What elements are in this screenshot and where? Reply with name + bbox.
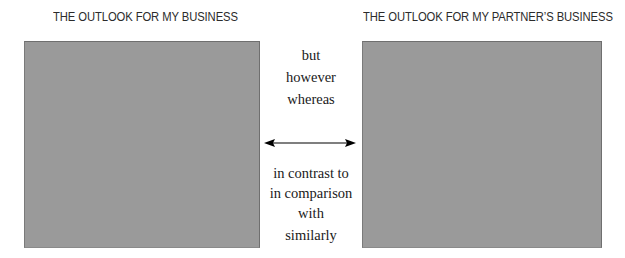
phrase-with: with (262, 203, 360, 223)
phrase-in-contrast-to: in contrast to (262, 162, 360, 184)
right-panel-title: THE OUTLOOK FOR MY PARTNER’S BUSINESS (363, 10, 613, 24)
comparison-words-list: in contrast to in comparison with simila… (262, 162, 360, 247)
contrast-words-list: but however whereas (262, 44, 360, 110)
left-business-panel (24, 41, 260, 248)
word-however: however (262, 66, 360, 88)
right-business-panel (362, 41, 602, 248)
word-similarly: similarly (262, 223, 360, 247)
word-whereas: whereas (262, 88, 360, 110)
phrase-in-comparison: in comparison (262, 184, 360, 203)
double-arrow-icon (262, 136, 358, 150)
word-but: but (262, 44, 360, 66)
left-panel-title: THE OUTLOOK FOR MY BUSINESS (53, 10, 238, 24)
